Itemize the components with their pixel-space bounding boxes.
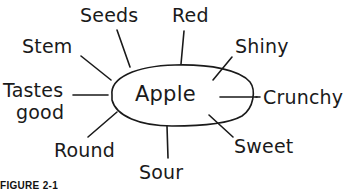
figure-caption: FIGURE 2-1 xyxy=(0,181,58,189)
branch-label-shiny: Shiny xyxy=(235,36,289,56)
branch-label-sweet: Sweet xyxy=(234,136,293,156)
branch-label-red: Red xyxy=(172,5,209,25)
branch-label-stem: Stem xyxy=(22,36,73,56)
apple-concept-web: Apple Seeds Red Stem Shiny Tastes good C… xyxy=(0,0,348,189)
center-label: Apple xyxy=(135,84,196,104)
branch-label-seeds: Seeds xyxy=(80,5,138,25)
line-seeds xyxy=(117,30,130,67)
branch-label-sour: Sour xyxy=(139,162,183,182)
branch-label-tastes-good-line1: Tastes xyxy=(3,80,63,100)
branch-label-crunchy: Crunchy xyxy=(263,87,343,107)
line-round xyxy=(88,112,117,137)
line-stem xyxy=(81,56,111,80)
branch-label-tastes-good-line2: good xyxy=(16,102,64,122)
line-red xyxy=(181,31,184,64)
line-sour xyxy=(167,126,168,158)
branch-label-round: Round xyxy=(54,140,115,160)
line-shiny xyxy=(213,57,232,80)
line-sweet xyxy=(209,115,233,137)
